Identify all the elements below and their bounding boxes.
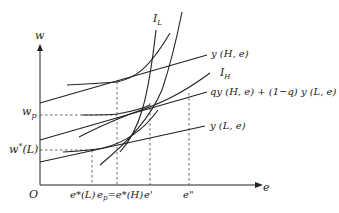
pooled-label: qy (H, e) + (1−q) y (L, e) <box>210 86 337 97</box>
yH-label: y (H, e) <box>210 48 249 59</box>
ep-label: ep=e*(H) <box>97 189 143 202</box>
x-axis-arrow-icon <box>255 182 263 188</box>
yL-label: y (L, e) <box>209 120 246 131</box>
IL-label: IL <box>152 12 162 27</box>
IH-curve <box>79 73 210 137</box>
edprime-label: e" <box>183 189 194 200</box>
IH-label: IH <box>219 66 231 81</box>
signaling-diagram: w e O wp w*(L) e*(L) ep=e*(H) e' e" IL I… <box>0 0 339 213</box>
lower-indifference-curve <box>63 110 158 152</box>
estarL-label: e*(L) <box>70 189 95 200</box>
pooled-line <box>40 92 207 140</box>
wp-indifference-curve <box>82 105 150 115</box>
wp-label: wp <box>22 105 37 120</box>
y-axis-label: w <box>35 29 45 42</box>
yL-line <box>40 126 205 162</box>
steep-indifference-curve <box>100 12 182 165</box>
x-axis-label: e <box>263 181 270 194</box>
yH-line <box>40 55 207 103</box>
wstarL-label: w*(L) <box>9 142 38 156</box>
origin-label: O <box>29 188 38 201</box>
IL-curve <box>120 30 156 152</box>
y-axis-arrow-icon <box>37 44 43 51</box>
eprime-label: e' <box>144 189 153 200</box>
